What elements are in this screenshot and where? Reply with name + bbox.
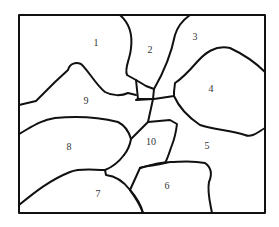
region-label-8: 8 — [67, 141, 72, 152]
region-label-6: 6 — [165, 180, 170, 191]
region-label-5: 5 — [205, 140, 210, 151]
boundary-1-2 — [120, 15, 138, 99]
region-label-2: 2 — [148, 44, 153, 55]
region-label-9: 9 — [84, 95, 89, 106]
boundary-3-4 — [174, 47, 265, 92]
region-label-1: 1 — [94, 37, 99, 48]
boundary-9-8 — [19, 117, 131, 155]
region-label-10: 10 — [146, 136, 156, 147]
boundary-1-9 — [19, 63, 136, 105]
region-labels: 1 2 3 4 5 6 7 8 9 10 — [67, 31, 214, 199]
map-frame — [19, 15, 265, 213]
region-label-7: 7 — [96, 188, 101, 199]
boundary-8-7 — [19, 168, 140, 205]
boundary-7-6 — [130, 190, 143, 213]
region-label-3: 3 — [193, 31, 198, 42]
boundary-4-5 — [174, 96, 265, 136]
region-map: 1 2 3 4 5 6 7 8 9 10 — [0, 0, 279, 227]
boundary-6 — [130, 161, 212, 213]
region-label-4: 4 — [209, 83, 214, 94]
boundary-center — [138, 92, 174, 122]
boundary-8-10 — [105, 155, 124, 170]
boundary-2-3 — [154, 15, 190, 89]
